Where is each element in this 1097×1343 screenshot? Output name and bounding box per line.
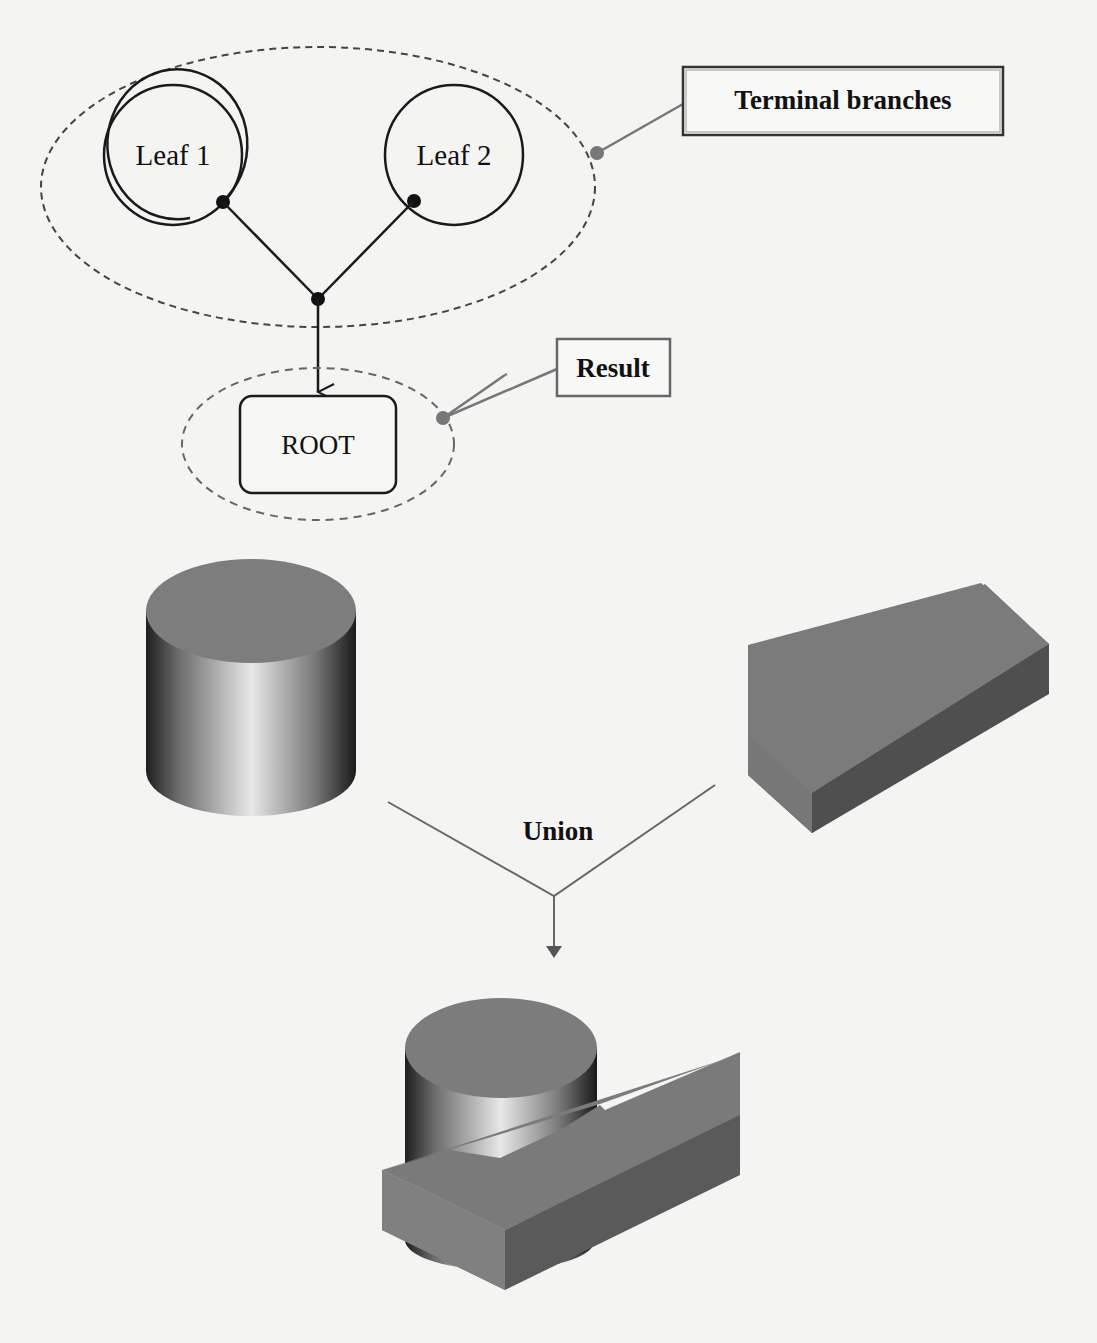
root-label: ROOT (281, 430, 355, 460)
terminal-branches-group: Leaf 1 Leaf 2 (41, 47, 595, 327)
leaf-1-label: Leaf 1 (136, 139, 211, 171)
terminal-branches-callout: Terminal branches (590, 67, 1003, 160)
cylinder-solid (146, 559, 356, 816)
union-result-solid (382, 998, 742, 1290)
csg-tree-diagram: Leaf 1 Leaf 2 Terminal branches ROOT (0, 0, 1097, 1343)
union-label: Union (523, 816, 594, 846)
result-callout: Result (436, 339, 670, 425)
edge-leaf2-join (318, 201, 414, 299)
box-solid (747, 583, 1049, 833)
leaf-2-node: Leaf 2 (385, 85, 523, 225)
leaf-2-label: Leaf 2 (417, 139, 492, 171)
union-connector: Union (388, 785, 715, 958)
terminal-callout-label: Terminal branches (734, 85, 951, 115)
result-callout-label: Result (576, 353, 650, 383)
terminal-dashed-ellipse (41, 47, 595, 327)
union-arrow-head (546, 946, 562, 958)
edge-leaf1-join (223, 202, 318, 299)
